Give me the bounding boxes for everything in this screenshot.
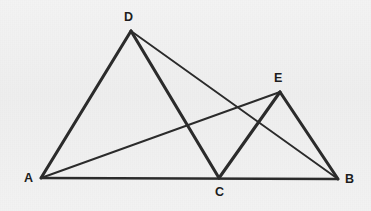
vertex-label-b: B <box>345 173 354 186</box>
segment-AE <box>41 92 280 178</box>
segment-EB <box>280 92 338 179</box>
vertex-label-c: C <box>215 186 224 199</box>
vertex-label-d: D <box>124 11 133 24</box>
segment-DC <box>131 31 219 178</box>
segment-AB <box>41 178 338 179</box>
geometry-figure: ABCDE <box>0 0 371 211</box>
segment-CE <box>219 92 280 178</box>
vertex-label-a: A <box>24 172 33 185</box>
geometry-canvas <box>0 0 371 211</box>
segments-group <box>41 31 338 179</box>
vertex-label-e: E <box>274 72 282 85</box>
segment-AD <box>41 31 131 178</box>
